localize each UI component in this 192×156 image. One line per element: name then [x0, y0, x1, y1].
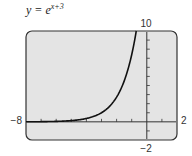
ymin-label: −2: [140, 143, 152, 154]
graph-window: 10 −2 −8 2: [0, 0, 192, 156]
xmax-label: 2: [181, 115, 187, 126]
xmin-label: −8: [11, 115, 23, 126]
ymax-label: 10: [140, 18, 152, 29]
calculator-screen-frame: [26, 31, 177, 140]
